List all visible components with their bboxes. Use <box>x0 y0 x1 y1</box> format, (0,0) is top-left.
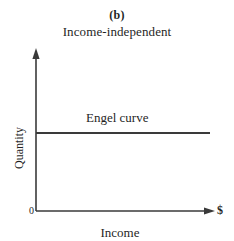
origin-label: 0 <box>24 205 34 217</box>
y-axis-title: Quantity <box>12 108 26 188</box>
x-axis-title: Income <box>50 225 190 240</box>
engel-curve-label: Engel curve <box>86 110 148 125</box>
y-axis-arrowhead <box>32 48 39 59</box>
x-axis-unit-label: $ <box>217 203 223 217</box>
engel-curve-figure: (b) Income-independent Engel curve Quant… <box>0 0 234 241</box>
x-axis-arrowhead <box>204 207 215 214</box>
